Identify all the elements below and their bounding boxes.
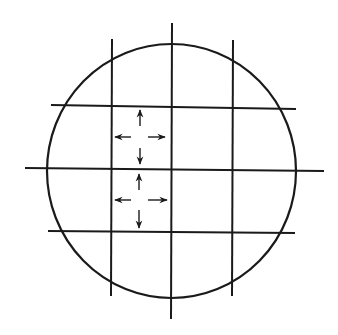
diagram-canvas: [0, 0, 338, 335]
horizontal-grid-line-3: [48, 231, 295, 233]
vertical-grid-lines: [111, 23, 233, 319]
vertical-grid-line-3: [232, 40, 233, 296]
arrow-group-upper-left-center: [115, 110, 165, 164]
vertical-grid-line-2: [171, 23, 172, 319]
arrow-group-lower-left-center: [115, 174, 167, 228]
horizontal-grid-lines: [25, 105, 324, 233]
horizontal-grid-line-2: [25, 168, 324, 171]
vertical-grid-line-1: [111, 39, 112, 296]
horizontal-grid-line-1: [51, 105, 296, 109]
